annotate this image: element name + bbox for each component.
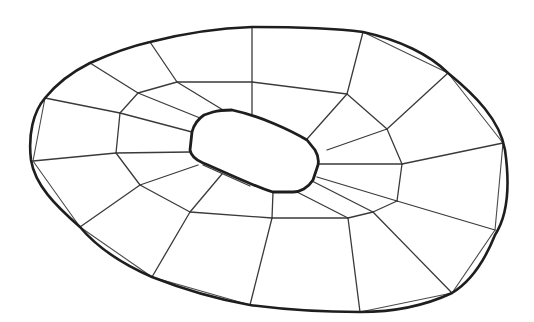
mesh-edge bbox=[327, 129, 387, 150]
mesh-edge bbox=[138, 82, 177, 93]
mesh-edge bbox=[138, 93, 200, 118]
mesh-edge bbox=[307, 94, 347, 139]
mesh-edge bbox=[190, 212, 272, 218]
mesh-edge bbox=[373, 201, 397, 212]
mesh-edge bbox=[116, 153, 140, 185]
mesh-edge bbox=[140, 165, 198, 185]
boundary-chord bbox=[448, 73, 503, 143]
mesh-edge bbox=[116, 152, 190, 153]
mesh-edge bbox=[45, 98, 120, 113]
mesh-edge bbox=[397, 201, 495, 230]
mesh-edge bbox=[402, 143, 503, 164]
inner-hole-boundary bbox=[190, 110, 318, 192]
mesh-edge bbox=[312, 181, 373, 212]
mesh-edge bbox=[90, 63, 138, 93]
boundary-chord bbox=[80, 227, 152, 277]
mesh-edge bbox=[252, 82, 347, 94]
mesh-edge bbox=[348, 218, 360, 312]
mesh-edge bbox=[140, 185, 190, 212]
mesh-edge bbox=[348, 212, 373, 218]
mesh-edge bbox=[347, 94, 387, 129]
boundary-chord bbox=[360, 293, 452, 312]
mesh-edge bbox=[120, 113, 192, 132]
mesh-edge bbox=[80, 185, 140, 227]
boundary-chord bbox=[33, 161, 80, 227]
mesh-edge bbox=[373, 212, 452, 293]
boundary-chord bbox=[452, 230, 495, 293]
mesh-edge bbox=[120, 93, 138, 113]
mesh-diagram bbox=[0, 0, 534, 322]
mesh-edge bbox=[33, 153, 116, 161]
mesh-edge bbox=[387, 129, 402, 164]
mesh-edge bbox=[397, 164, 402, 201]
mesh-edge bbox=[177, 82, 223, 110]
mesh-edge bbox=[250, 218, 272, 305]
mesh-edge bbox=[116, 113, 120, 153]
mesh-edge bbox=[190, 174, 222, 212]
mesh-edge bbox=[272, 192, 273, 218]
mesh-edge bbox=[347, 32, 363, 94]
mesh-edge bbox=[150, 42, 177, 82]
boundary-chord bbox=[363, 32, 448, 73]
mesh-edge bbox=[387, 73, 448, 129]
mesh-edge bbox=[152, 212, 190, 277]
